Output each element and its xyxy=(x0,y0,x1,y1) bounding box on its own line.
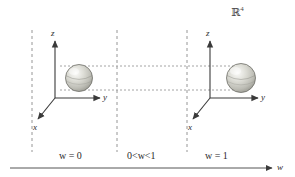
left-sphere xyxy=(66,65,93,92)
right-x-axis-label: x xyxy=(188,122,192,132)
right-y-axis-label: y xyxy=(261,92,265,102)
r4-interpolation-diagram: ℝ4 z y x z y x w = 0 0<w<1 w = 1 w xyxy=(0,0,295,177)
w-equals-one-label: w = 1 xyxy=(205,150,228,161)
ambient-space-exponent: 4 xyxy=(240,5,244,13)
w-equals-zero-label: w = 0 xyxy=(59,150,82,161)
right-sphere xyxy=(227,64,256,93)
left-y-axis-label: y xyxy=(103,92,107,102)
left-z-axis-label: z xyxy=(51,28,55,38)
right-z-axis-label: z xyxy=(206,28,210,38)
w-axis-label: w xyxy=(277,162,283,172)
left-x-axis-label: x xyxy=(33,122,37,132)
left-x-axis xyxy=(38,98,55,119)
w-between-label: 0<w<1 xyxy=(127,150,156,161)
ambient-space-label: ℝ4 xyxy=(231,5,244,19)
right-x-axis xyxy=(193,98,210,119)
